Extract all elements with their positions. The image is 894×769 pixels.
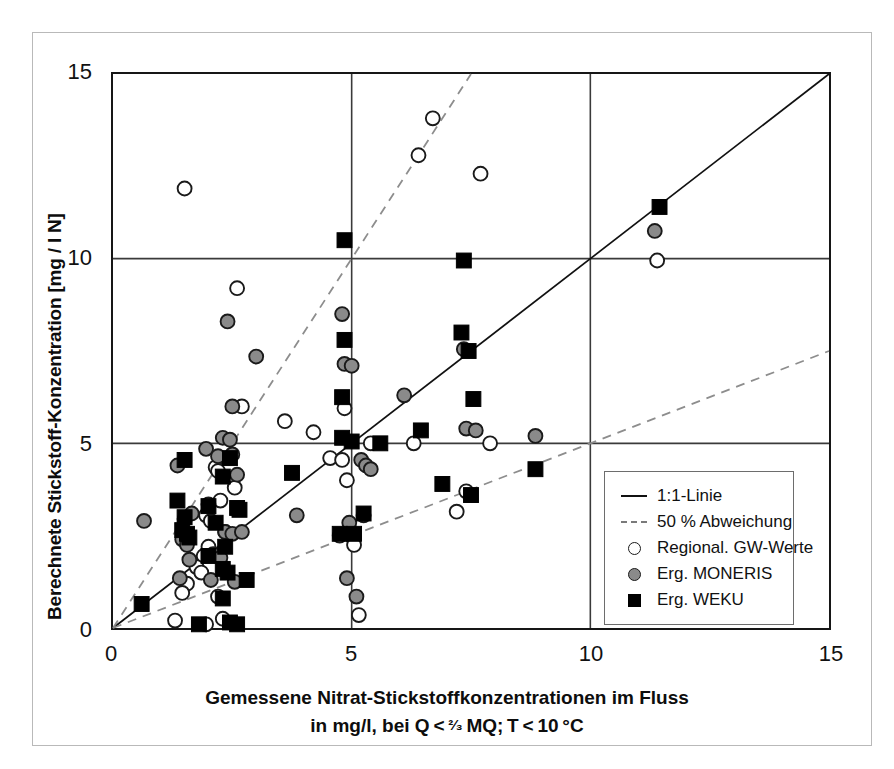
data-point-gw-werte [197, 549, 211, 563]
data-point-moneris [225, 447, 239, 461]
xtick-15: 15 [819, 641, 843, 667]
xtick-5: 5 [345, 641, 357, 667]
data-point-gw-werte [199, 617, 213, 631]
x-axis-label-line2: in mg/l, bei Q < ²⁄₃ MQ; T < 10 °C [0, 712, 894, 740]
data-point-weku [191, 617, 206, 632]
figure: 15 10 5 0 0 5 10 15 Berechnete Stickstof… [0, 0, 894, 769]
data-point-gw-werte [407, 436, 421, 450]
data-point-weku [218, 539, 233, 554]
data-point-gw-werte [483, 436, 497, 450]
data-point-moneris [230, 468, 244, 482]
data-point-weku [175, 523, 190, 538]
data-point-gw-werte [474, 167, 488, 181]
legend-label: 50 % Abweichung [657, 512, 792, 532]
data-point-weku [201, 499, 216, 514]
data-point-gw-werte [340, 473, 354, 487]
data-point-gw-werte [278, 414, 292, 428]
data-point-weku [464, 488, 479, 503]
data-point-moneris [340, 571, 354, 585]
data-point-gw-werte [175, 586, 189, 600]
data-point-moneris [335, 307, 349, 321]
data-point-moneris [216, 431, 230, 445]
data-point-moneris [528, 429, 542, 443]
deviation-line [113, 74, 471, 628]
data-point-weku [177, 510, 192, 525]
data-point-weku [239, 573, 254, 588]
data-point-weku [230, 617, 245, 632]
data-point-weku [182, 530, 197, 545]
data-point-moneris [223, 433, 237, 447]
data-point-gw-werte [335, 453, 349, 467]
dashed-line-icon [617, 521, 651, 523]
data-point-moneris [199, 442, 213, 456]
data-point-gw-werte [412, 148, 426, 162]
data-point-moneris [175, 532, 189, 546]
data-point-gw-werte [338, 401, 352, 415]
data-point-moneris [211, 449, 225, 463]
data-point-moneris [206, 547, 220, 561]
data-point-gw-werte [209, 460, 223, 474]
data-point-weku [232, 502, 247, 517]
legend-item-moneris: Erg. MONERIS [617, 561, 779, 587]
data-point-weku [215, 561, 230, 576]
data-point-moneris [218, 525, 232, 539]
data-point-moneris [170, 459, 184, 473]
data-point-moneris [648, 224, 662, 238]
data-point-weku [435, 477, 450, 492]
data-point-weku [222, 615, 237, 630]
data-point-weku [456, 253, 471, 268]
data-point-weku [220, 565, 235, 580]
data-point-gw-werte [211, 590, 225, 604]
data-point-gw-werte [216, 612, 230, 626]
data-point-moneris [342, 516, 356, 530]
legend-label: 1:1-Linie [657, 486, 722, 506]
data-point-gw-werte [235, 399, 249, 413]
data-point-gw-werte [178, 182, 192, 196]
legend-label: Erg. WEKU [657, 590, 744, 610]
data-point-moneris [354, 453, 368, 467]
data-point-weku [528, 462, 543, 477]
data-point-moneris [349, 590, 363, 604]
data-point-moneris [338, 357, 352, 371]
data-point-weku [201, 549, 216, 564]
data-point-gw-werte [352, 608, 366, 622]
data-point-gw-werte [211, 464, 225, 478]
data-point-weku [454, 325, 469, 340]
data-point-moneris [178, 512, 192, 526]
data-point-moneris [235, 525, 249, 539]
black-square-icon [617, 594, 651, 607]
solid-line-icon [617, 495, 651, 497]
data-point-weku [337, 332, 352, 347]
data-point-moneris [137, 514, 151, 528]
data-point-weku [285, 465, 300, 480]
data-point-gw-werte [190, 560, 204, 574]
data-point-gw-werte [230, 281, 244, 295]
data-point-gw-werte [347, 538, 361, 552]
data-point-moneris [469, 423, 483, 437]
data-point-weku [337, 233, 352, 248]
x-axis-label-line1: Gemessene Nitrat-Stickstoffkonzentration… [205, 687, 689, 708]
data-point-moneris [359, 459, 373, 473]
data-point-weku [461, 344, 476, 359]
data-point-gw-werte [194, 566, 208, 580]
data-point-gw-werte [168, 614, 182, 628]
ytick-15: 15 [58, 59, 92, 85]
data-point-moneris [213, 551, 227, 565]
data-point-weku [373, 436, 388, 451]
data-point-weku [177, 453, 192, 468]
data-point-gw-werte [323, 451, 337, 465]
data-point-gw-werte [450, 505, 464, 519]
legend-item-gw-werte: Regional. GW-Werte [617, 535, 779, 561]
ytick-0: 0 [58, 617, 92, 643]
data-point-gw-werte [213, 494, 227, 508]
data-point-gw-werte [204, 514, 218, 528]
x-axis-label: Gemessene Nitrat-Stickstoffkonzentration… [0, 684, 894, 739]
data-point-weku [215, 591, 230, 606]
data-point-weku [230, 501, 245, 516]
data-point-gw-werte [364, 436, 378, 450]
data-point-moneris [185, 507, 199, 521]
data-point-gw-werte [459, 484, 473, 498]
data-point-weku [170, 493, 185, 508]
data-point-gw-werte [228, 481, 242, 495]
data-point-gw-werte [426, 111, 440, 125]
